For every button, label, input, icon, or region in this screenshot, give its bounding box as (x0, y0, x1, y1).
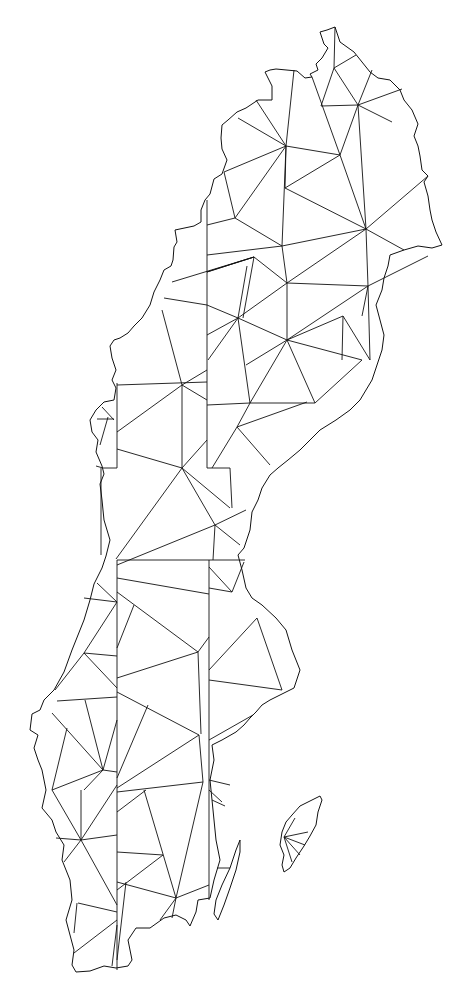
sweden-map (0, 0, 463, 994)
triangulation-mesh (52, 27, 428, 966)
map-canvas (0, 0, 463, 994)
mesh-dividers (103, 200, 245, 970)
gotland-outline (280, 796, 322, 872)
mainland-outline (30, 27, 442, 972)
